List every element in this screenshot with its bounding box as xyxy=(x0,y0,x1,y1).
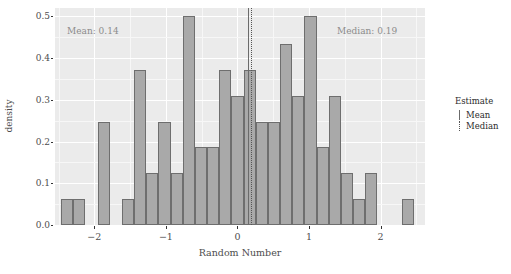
histogram-bar xyxy=(402,199,414,225)
legend-items: MeanMedian xyxy=(455,109,498,131)
y-tick-mark xyxy=(51,183,53,184)
histogram-bar xyxy=(73,199,85,225)
x-tick-mark xyxy=(237,226,238,229)
histogram-bar xyxy=(171,173,183,225)
histogram-bar xyxy=(244,70,256,225)
histogram-bar xyxy=(231,96,243,225)
caption xyxy=(0,266,511,274)
y-tick-mark xyxy=(51,16,53,17)
y-tick-label: 0.1 xyxy=(8,178,50,188)
x-tick-mark xyxy=(94,226,95,229)
horizontal-gridline-major xyxy=(55,58,425,59)
x-tick-mark xyxy=(309,226,310,229)
horizontal-gridline-minor xyxy=(55,37,425,38)
histogram-bar xyxy=(329,96,341,225)
histogram-bar xyxy=(134,70,146,225)
plot-panel: Mean: 0.14Median: 0.19 xyxy=(55,8,425,225)
horizontal-gridline-minor xyxy=(55,79,425,80)
vertical-gridline-minor xyxy=(59,8,60,225)
x-tick-label: 0 xyxy=(234,231,240,242)
vertical-gridline-minor xyxy=(416,8,417,225)
mean-annotation: Mean: 0.14 xyxy=(67,26,119,36)
x-tick-mark xyxy=(166,226,167,229)
legend-key-median-icon xyxy=(455,120,464,131)
median-annotation: Median: 0.19 xyxy=(337,26,397,36)
histogram-bar xyxy=(280,44,292,225)
histogram-bar xyxy=(207,147,219,225)
legend-title: Estimate xyxy=(455,96,498,106)
median-line xyxy=(251,8,252,225)
x-tick-label: −2 xyxy=(87,231,101,242)
mean-line xyxy=(248,8,249,225)
x-tick-label: −1 xyxy=(159,231,173,242)
histogram-bar xyxy=(317,147,329,225)
histogram-bar xyxy=(183,16,195,225)
histogram-bar xyxy=(146,173,158,225)
y-tick-label: 0.2 xyxy=(8,137,50,147)
legend-item-label: Mean xyxy=(466,110,490,120)
legend-item[interactable]: Mean xyxy=(455,109,498,120)
vertical-gridline-major xyxy=(94,8,95,225)
histogram-bar xyxy=(365,173,377,225)
histogram-bar xyxy=(268,122,280,225)
x-tick-label: 1 xyxy=(306,231,312,242)
histogram-bar xyxy=(195,147,207,225)
y-tick-label: 0.0 xyxy=(8,220,50,230)
histogram-bar xyxy=(122,199,134,225)
legend: Estimate MeanMedian xyxy=(455,96,498,131)
histogram-bar xyxy=(341,173,353,225)
y-tick-mark xyxy=(51,100,53,101)
histogram-bar xyxy=(219,70,231,225)
x-tick-mark xyxy=(381,226,382,229)
vertical-gridline-minor xyxy=(130,8,131,225)
y-tick-label: 0.4 xyxy=(8,53,50,63)
y-tick-label: 0.5 xyxy=(8,11,50,21)
histogram-bar xyxy=(61,199,73,225)
horizontal-gridline-major xyxy=(55,16,425,17)
histogram-bar xyxy=(292,96,304,225)
histogram-bar xyxy=(98,122,110,225)
y-tick-mark xyxy=(51,225,53,226)
y-tick-mark xyxy=(51,58,53,59)
vertical-gridline-major xyxy=(381,8,382,225)
histogram-bar xyxy=(158,122,170,225)
y-tick-label: 0.3 xyxy=(8,95,50,105)
y-axis-ticks: 0.00.10.20.30.40.5 xyxy=(0,0,50,274)
histogram-bar xyxy=(353,199,365,225)
histogram-bar xyxy=(256,122,268,225)
x-axis-title: Random Number xyxy=(55,247,425,258)
legend-key-mean-icon xyxy=(455,109,464,120)
histogram-bar xyxy=(304,16,316,225)
legend-item[interactable]: Median xyxy=(455,120,498,131)
chart-root: density 0.00.10.20.30.40.5 Mean: 0.14Med… xyxy=(0,0,511,274)
x-tick-label: 2 xyxy=(378,231,384,242)
y-tick-mark xyxy=(51,142,53,143)
legend-item-label: Median xyxy=(466,121,498,131)
